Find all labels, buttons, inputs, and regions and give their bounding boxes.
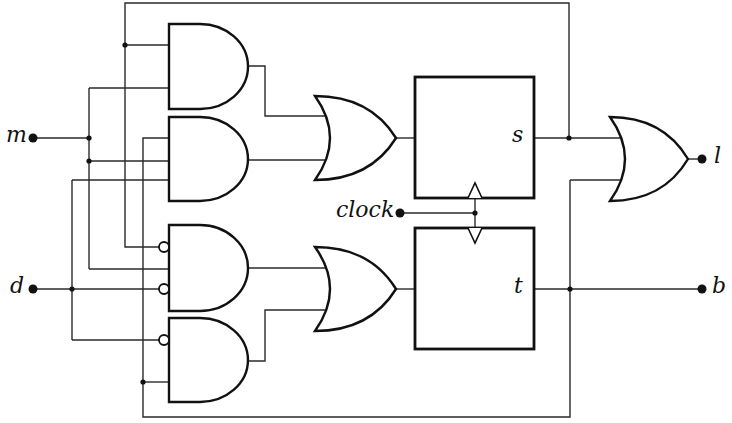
terminal-dot-m bbox=[29, 134, 38, 143]
junction-dot bbox=[566, 135, 571, 140]
terminal-dot-b bbox=[698, 285, 707, 294]
flip-flop-label-t: t bbox=[514, 275, 523, 297]
inverter-bubbles bbox=[159, 242, 169, 345]
junction-dot bbox=[86, 158, 91, 163]
output-label-l: l bbox=[714, 145, 721, 167]
input-label-clock: clock bbox=[336, 199, 394, 221]
or-gate-3 bbox=[610, 117, 688, 201]
wire-and1-to-or1 bbox=[248, 66, 330, 116]
junction-dot bbox=[69, 286, 74, 291]
or-gate-2 bbox=[315, 247, 396, 331]
and-gate-4 bbox=[169, 318, 248, 402]
flip-flop-label-s: s bbox=[512, 124, 523, 146]
junction-dot bbox=[567, 286, 572, 291]
and-gate-3 bbox=[169, 225, 248, 311]
junction-dot bbox=[86, 135, 91, 140]
output-label-b: b bbox=[712, 275, 726, 297]
junction-dot bbox=[122, 42, 127, 47]
or-gate-1 bbox=[315, 96, 396, 180]
inverter-bubble-and3-d bbox=[159, 284, 169, 294]
junction-dot bbox=[140, 379, 145, 384]
inverter-bubble-and3-s bbox=[159, 242, 169, 252]
and-gate-1 bbox=[169, 24, 248, 109]
and-gate-2 bbox=[169, 117, 248, 201]
terminal-dot-l bbox=[698, 155, 707, 164]
junction-dot bbox=[472, 210, 477, 215]
logic-circuit-diagram: m d clock l b s t bbox=[0, 0, 732, 423]
input-label-m: m bbox=[6, 124, 27, 146]
wire-and4-to-or2 bbox=[248, 310, 330, 361]
inverter-bubble-and4-d bbox=[159, 335, 169, 345]
terminal-dot-d bbox=[29, 285, 38, 294]
input-label-d: d bbox=[10, 275, 24, 297]
terminal-dot-clock bbox=[396, 209, 405, 218]
and-gates bbox=[169, 24, 248, 402]
